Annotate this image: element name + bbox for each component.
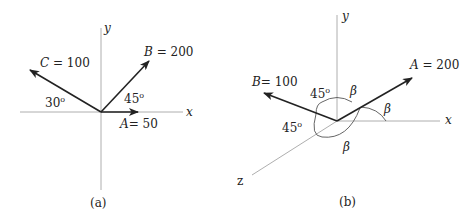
angle-c-label-a: 30o [45,95,65,110]
vector-a-label-b: A = 200 [409,58,459,72]
y-axis-label-b: y [341,9,349,23]
panel-a: y x A= 50 B = 200 C = 100 45o 30o (a) [20,21,193,210]
angle-b-label-a: 45o [124,91,144,106]
angle-45-bottom-label-b: 45o [282,120,302,135]
vector-b-label-a: B = 200 [143,45,193,59]
vector-c-label-a: C = 100 [40,56,90,70]
vector-b-b [264,93,337,121]
angle-45-top-label-b: 45o [310,86,330,101]
caption-a: (a) [90,196,107,210]
caption-b: (b) [339,195,356,209]
vector-a-b [337,78,412,121]
vector-a-label-a: A= 50 [119,117,158,131]
z-axis-label-b: z [237,174,243,188]
x-axis-label-b: x [445,113,452,127]
beta-bottom-label: β [342,140,350,154]
vector-b-label-b: B= 100 [251,75,298,89]
angle-arc-left [316,102,322,114]
angle-arc-beta-x [361,107,386,121]
vector-c-a [30,70,101,112]
x-axis-label-a: x [186,105,193,119]
panel-b: y x z A = 200 B= 100 45o 45o β β β (b) [237,9,459,209]
beta-top-label: β [349,84,357,98]
y-axis-label-a: y [103,21,111,35]
vector-diagram: y x A= 50 B = 200 C = 100 45o 30o (a) y … [0,0,469,222]
beta-right-label: β [383,102,391,116]
